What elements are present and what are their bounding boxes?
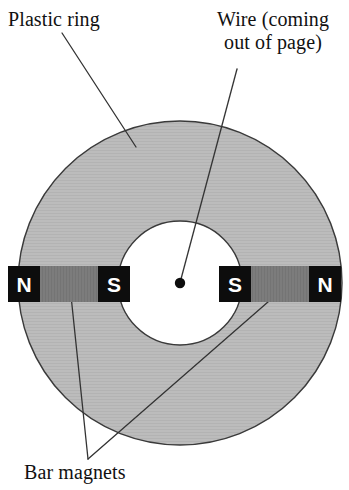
bar-magnet-right-pole-right-label: N: [317, 273, 332, 296]
label-bar-magnets: Bar magnets: [24, 461, 126, 484]
plastic-ring-shape: [0, 0, 349, 490]
bar-magnet-right-pole-left-label: S: [228, 273, 242, 296]
label-wire: Wire (coming out of page): [202, 8, 344, 54]
bar-magnet-left: NS: [8, 266, 130, 302]
wire-dot-icon: [175, 278, 185, 288]
bar-magnet-left-pole-right-label: S: [107, 273, 121, 296]
bar-magnet-right: SN: [219, 266, 341, 302]
label-wire-line-1: Wire (coming: [202, 8, 344, 31]
magnet-ring-diagram: NSSN Plastic ring Wire (coming out of pa…: [0, 0, 349, 490]
bar-magnet-left-pole-left-label: N: [16, 273, 31, 296]
diagram-canvas: NSSN: [0, 0, 349, 490]
label-wire-line-2: out of page): [202, 31, 344, 54]
plastic-ring-fill: [0, 0, 349, 490]
label-plastic-ring: Plastic ring: [8, 8, 100, 31]
